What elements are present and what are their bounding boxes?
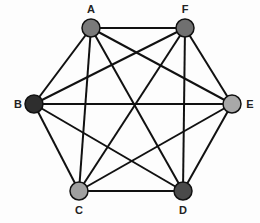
node-label-E: E <box>246 98 253 110</box>
node-label-B: B <box>14 98 22 110</box>
node-E <box>223 95 241 113</box>
node-C <box>70 182 88 200</box>
edge-E-C <box>79 104 232 191</box>
node-label-D: D <box>179 204 187 216</box>
graph-labels: AFBECD <box>14 3 254 216</box>
edge-F-E <box>185 28 232 104</box>
complete-graph-diagram: AFBECD <box>0 0 260 223</box>
node-F <box>176 19 194 37</box>
node-B <box>25 95 43 113</box>
node-label-F: F <box>182 3 189 15</box>
node-D <box>174 182 192 200</box>
node-label-C: C <box>75 204 83 216</box>
edge-A-C <box>79 28 91 191</box>
graph-edges <box>34 28 232 191</box>
node-A <box>82 19 100 37</box>
node-label-A: A <box>87 3 95 15</box>
edge-A-B <box>34 28 91 104</box>
edge-F-D <box>183 28 185 191</box>
